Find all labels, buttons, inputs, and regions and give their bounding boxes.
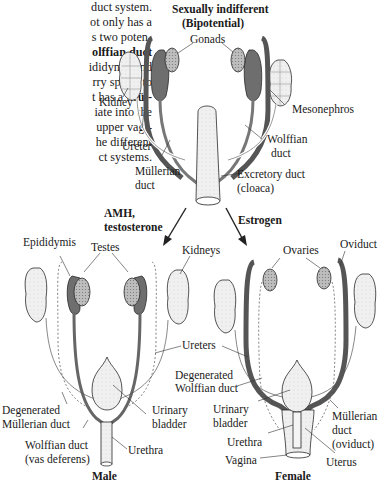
label-kidney: Kidney (99, 96, 133, 109)
label-vagina: Vagina (225, 454, 257, 467)
kidney-icon (269, 60, 291, 106)
male-drawing (25, 262, 189, 466)
arrow-to-male-icon (163, 208, 186, 246)
label-cloaca: (cloaca) (237, 182, 274, 195)
label-testes: Testes (91, 241, 120, 254)
label-degenerated-mullerian: Degenerated (2, 404, 60, 417)
label-ureter: Ureter (122, 140, 151, 153)
label-estrogen: Estrogen (238, 214, 282, 227)
label-degenerated-wolffian-2: Wolffian duct (175, 382, 238, 395)
label-wolffian: Wolffian (267, 133, 307, 146)
male-title: Male (92, 470, 117, 483)
label-male-urethra: Urethra (128, 444, 163, 457)
label-female-urinary-bladder-2: bladder (213, 417, 247, 430)
label-mesonephros: Mesonephros (292, 103, 354, 116)
label-female-urethra: Urethra (227, 436, 262, 449)
label-degenerated-mullerian-2: Müllerian duct (2, 418, 70, 431)
label-female-mullerian: Müllerian (332, 410, 377, 423)
label-ureters: Ureters (182, 339, 216, 352)
label-wolffian-2: duct (271, 147, 291, 160)
label-female-urinary-bladder: Urinary (213, 403, 249, 416)
label-male-urinary-bladder: Urinary (152, 404, 188, 417)
label-wolffian-vas-deferens: Wolffian duct (25, 439, 88, 452)
label-amh: AMH, (104, 207, 135, 220)
label-testosterone: testosterone (104, 221, 163, 234)
label-female-mullerian-oviduct: (oviduct) (332, 438, 374, 451)
label-excretory-duct: Excretory duct (237, 168, 305, 181)
indifferent-subtitle: (Bipotential) (182, 17, 244, 30)
label-uterus: Uterus (326, 456, 357, 469)
label-epididymis: Epididymis (23, 236, 76, 249)
label-oviduct: Oviduct (340, 238, 377, 251)
label-gonads: Gonads (190, 33, 225, 46)
label-mullerian-2: duct (135, 179, 155, 192)
label-mullerian: Müllerian (135, 165, 180, 178)
kidney-icon (119, 52, 141, 100)
label-kidneys: Kidneys (182, 244, 220, 257)
indifferent-title: Sexually indifferent (172, 3, 269, 16)
label-vas-deferens: (vas deferens) (25, 453, 90, 466)
label-female-mullerian-2: duct (332, 424, 352, 437)
label-male-urinary-bladder-2: bladder (152, 418, 186, 431)
female-title: Female (275, 470, 311, 483)
label-ovaries: Ovaries (283, 244, 319, 257)
label-degenerated-wolffian: Degenerated (175, 369, 233, 382)
